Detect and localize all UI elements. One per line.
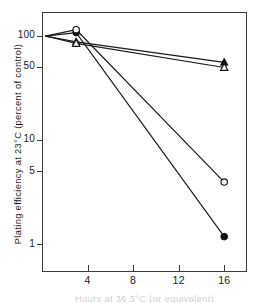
figure-plating-efficiency: Plating efficiency at 23°C (percent of c… [0,0,261,303]
x-tick-label-4: 4 [73,274,103,286]
y-tick-label-10: 10 [1,133,35,144]
plot-area: 100 50 10 5 1 4 8 12 16 [42,12,247,272]
data-series-layer [42,12,247,272]
x-axis-title: Hours at 36.5°C (or equivalent) [42,294,247,303]
y-tick-label-1: 1 [1,238,35,249]
x-tick-label-12: 12 [164,274,194,286]
x-tick-label-16: 16 [209,274,239,286]
x-tick-label-8: 8 [118,274,148,286]
y-tick-label-100: 100 [1,29,35,40]
series-line-filled-triangle [45,36,224,62]
y-tick-label-5: 5 [1,165,35,176]
data-point-open-circle-2 [221,179,227,185]
data-point-filled-circle-2 [221,233,228,240]
y-tick-label-50: 50 [1,60,35,71]
data-point-open-circle-1 [73,27,79,33]
